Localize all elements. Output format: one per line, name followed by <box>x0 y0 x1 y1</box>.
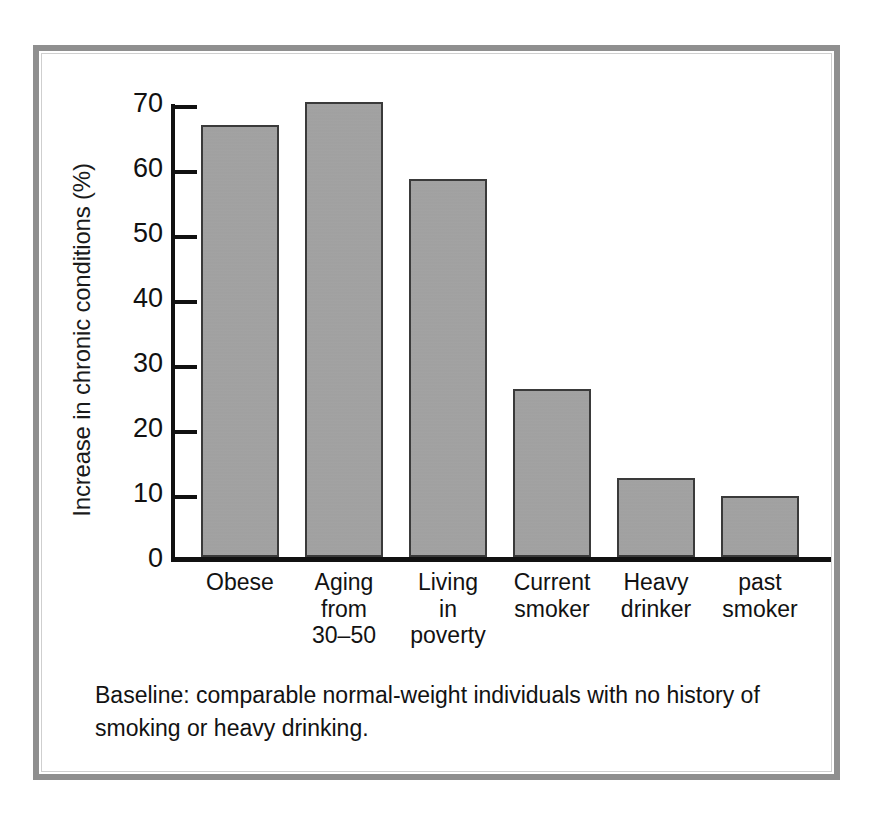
bar-obese <box>201 125 279 557</box>
y-tick-label-60: 60 <box>97 155 163 182</box>
y-tick-label-70: 70 <box>97 90 163 117</box>
x-category-label-living-in-poverty: Living in poverty <box>393 569 503 649</box>
x-category-label-heavy-drinker: Heavy drinker <box>598 569 714 622</box>
y-tick-label-30: 30 <box>97 350 163 377</box>
x-category-label-current-smoker: Current smoker <box>494 569 610 622</box>
x-category-label-obese: Obese <box>185 569 295 596</box>
y-tick-mark-20 <box>175 430 197 434</box>
chart-plot-area: Increase in chronic conditions (%) 70 60… <box>39 51 846 786</box>
y-tick-mark-70 <box>175 105 197 109</box>
y-tick-label-40: 40 <box>97 285 163 312</box>
y-tick-mark-60 <box>175 170 197 174</box>
baseline-footnote: Baseline: comparable normal-weight indiv… <box>95 679 785 744</box>
y-tick-mark-30 <box>175 365 197 369</box>
bar-past-smoker <box>721 496 799 557</box>
y-tick-label-20: 20 <box>97 415 163 442</box>
bar-current-smoker <box>513 389 591 557</box>
y-tick-label-10: 10 <box>97 480 163 507</box>
y-tick-mark-10 <box>175 495 197 499</box>
bar-heavy-drinker <box>617 478 695 557</box>
bar-aging-from-30-50 <box>305 102 383 557</box>
y-tick-label-50: 50 <box>97 220 163 247</box>
scanned-page: Increase in chronic conditions (%) 70 60… <box>0 0 872 817</box>
y-axis-title: Increase in chronic conditions (%) <box>68 130 96 550</box>
x-axis-line <box>171 557 831 562</box>
x-category-label-past-smoker: past smoker <box>702 569 818 622</box>
x-category-label-aging-from-30-50: Aging from 30–50 <box>289 569 399 649</box>
cropped-caption-sliver <box>120 800 760 816</box>
y-tick-mark-40 <box>175 300 197 304</box>
y-tick-mark-50 <box>175 235 197 239</box>
figure-frame: Increase in chronic conditions (%) 70 60… <box>33 45 840 780</box>
y-tick-label-0: 0 <box>97 545 163 572</box>
bar-living-in-poverty <box>409 179 487 557</box>
